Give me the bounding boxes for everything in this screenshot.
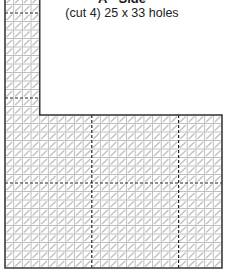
side-piece-grid [0,0,229,275]
pattern-caption: A - Side (cut 4) 25 x 33 holes [52,0,192,20]
piece-cut-info: (cut 4) 25 x 33 holes [52,6,192,20]
plastic-canvas-pattern: A - Side (cut 4) 25 x 33 holes [0,0,229,275]
